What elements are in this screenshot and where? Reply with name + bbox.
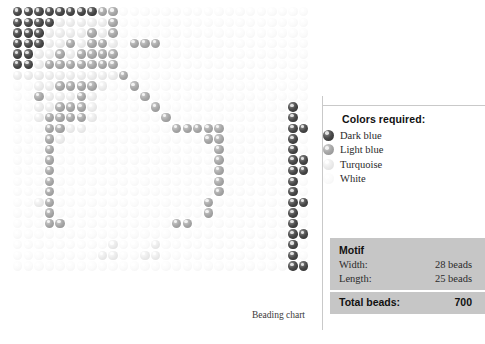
- bead-cell[interactable]: [278, 155, 289, 166]
- bead-cell[interactable]: [299, 251, 310, 262]
- bead-cell[interactable]: [34, 71, 45, 82]
- bead-cell[interactable]: [161, 145, 172, 156]
- bead-cell[interactable]: [98, 134, 109, 145]
- bead-cell[interactable]: [66, 39, 77, 50]
- bead-cell[interactable]: [267, 208, 278, 219]
- bead-cell[interactable]: [246, 208, 257, 219]
- bead-cell[interactable]: [204, 198, 215, 209]
- bead-cell[interactable]: [55, 60, 66, 71]
- bead-cell[interactable]: [140, 39, 151, 50]
- bead-cell[interactable]: [204, 18, 215, 29]
- bead-cell[interactable]: [246, 198, 257, 209]
- bead-cell[interactable]: [235, 124, 246, 135]
- bead-cell[interactable]: [34, 229, 45, 240]
- bead-cell[interactable]: [24, 60, 35, 71]
- bead-cell[interactable]: [130, 18, 141, 29]
- bead-cell[interactable]: [204, 49, 215, 60]
- bead-cell[interactable]: [140, 7, 151, 18]
- bead-cell[interactable]: [24, 229, 35, 240]
- bead-cell[interactable]: [246, 28, 257, 39]
- bead-cell[interactable]: [257, 49, 268, 60]
- bead-cell[interactable]: [161, 219, 172, 230]
- bead-cell[interactable]: [13, 229, 24, 240]
- bead-cell[interactable]: [140, 60, 151, 71]
- bead-cell[interactable]: [183, 177, 194, 188]
- bead-cell[interactable]: [130, 71, 141, 82]
- bead-cell[interactable]: [98, 113, 109, 124]
- bead-cell[interactable]: [45, 229, 56, 240]
- bead-cell[interactable]: [278, 166, 289, 177]
- bead-cell[interactable]: [45, 81, 56, 92]
- bead-cell[interactable]: [45, 71, 56, 82]
- bead-cell[interactable]: [161, 7, 172, 18]
- bead-cell[interactable]: [288, 28, 299, 39]
- bead-cell[interactable]: [119, 39, 130, 50]
- bead-cell[interactable]: [225, 28, 236, 39]
- bead-cell[interactable]: [13, 124, 24, 135]
- bead-cell[interactable]: [66, 198, 77, 209]
- bead-cell[interactable]: [98, 145, 109, 156]
- bead-cell[interactable]: [257, 240, 268, 251]
- bead-cell[interactable]: [24, 261, 35, 272]
- bead-cell[interactable]: [66, 102, 77, 113]
- bead-cell[interactable]: [77, 113, 88, 124]
- bead-cell[interactable]: [87, 71, 98, 82]
- legend-item-light-blue[interactable]: Light blue: [323, 143, 483, 158]
- bead-cell[interactable]: [119, 177, 130, 188]
- bead-cell[interactable]: [98, 187, 109, 198]
- bead-cell[interactable]: [55, 240, 66, 251]
- bead-cell[interactable]: [151, 18, 162, 29]
- bead-cell[interactable]: [267, 18, 278, 29]
- bead-cell[interactable]: [214, 177, 225, 188]
- bead-cell[interactable]: [193, 229, 204, 240]
- bead-cell[interactable]: [151, 39, 162, 50]
- bead-cell[interactable]: [288, 229, 299, 240]
- bead-cell[interactable]: [183, 7, 194, 18]
- bead-cell[interactable]: [225, 18, 236, 29]
- bead-cell[interactable]: [24, 251, 35, 262]
- bead-cell[interactable]: [225, 113, 236, 124]
- bead-cell[interactable]: [130, 219, 141, 230]
- bead-cell[interactable]: [288, 219, 299, 230]
- bead-cell[interactable]: [130, 177, 141, 188]
- bead-cell[interactable]: [77, 251, 88, 262]
- bead-cell[interactable]: [278, 60, 289, 71]
- bead-cell[interactable]: [130, 229, 141, 240]
- bead-cell[interactable]: [119, 92, 130, 103]
- bead-cell[interactable]: [278, 102, 289, 113]
- bead-cell[interactable]: [172, 145, 183, 156]
- bead-cell[interactable]: [151, 113, 162, 124]
- bead-cell[interactable]: [172, 229, 183, 240]
- bead-cell[interactable]: [299, 60, 310, 71]
- bead-cell[interactable]: [34, 198, 45, 209]
- bead-cell[interactable]: [183, 18, 194, 29]
- bead-cell[interactable]: [299, 71, 310, 82]
- bead-cell[interactable]: [246, 229, 257, 240]
- bead-cell[interactable]: [55, 134, 66, 145]
- bead-cell[interactable]: [77, 208, 88, 219]
- bead-cell[interactable]: [161, 134, 172, 145]
- bead-cell[interactable]: [288, 60, 299, 71]
- bead-cell[interactable]: [55, 208, 66, 219]
- bead-cell[interactable]: [130, 134, 141, 145]
- bead-cell[interactable]: [66, 251, 77, 262]
- bead-cell[interactable]: [299, 92, 310, 103]
- bead-cell[interactable]: [87, 39, 98, 50]
- legend-item-turquoise[interactable]: Turquoise: [323, 157, 483, 172]
- bead-cell[interactable]: [267, 49, 278, 60]
- bead-cell[interactable]: [140, 49, 151, 60]
- bead-cell[interactable]: [140, 145, 151, 156]
- bead-cell[interactable]: [45, 145, 56, 156]
- bead-cell[interactable]: [151, 261, 162, 272]
- bead-cell[interactable]: [55, 219, 66, 230]
- bead-cell[interactable]: [24, 155, 35, 166]
- bead-cell[interactable]: [235, 251, 246, 262]
- bead-cell[interactable]: [108, 18, 119, 29]
- bead-cell[interactable]: [172, 177, 183, 188]
- bead-cell[interactable]: [77, 166, 88, 177]
- bead-cell[interactable]: [225, 81, 236, 92]
- bead-cell[interactable]: [246, 155, 257, 166]
- bead-cell[interactable]: [66, 240, 77, 251]
- bead-cell[interactable]: [193, 208, 204, 219]
- bead-cell[interactable]: [257, 18, 268, 29]
